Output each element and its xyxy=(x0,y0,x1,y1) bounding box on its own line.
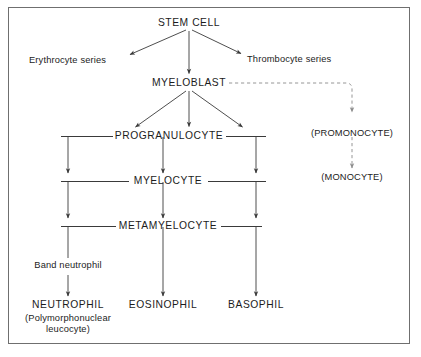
node-erythrocyte-series: Erythrocyte series xyxy=(29,55,106,66)
edge-stemcell-erythrocyte xyxy=(130,30,186,55)
node-monocyte: (MONOCYTE) xyxy=(321,172,382,183)
node-myelocyte: MYELOCYTE xyxy=(134,175,202,187)
diagram-page: STEM CELL Erythrocyte series Thrombocyte… xyxy=(0,0,421,357)
neutrophil-subtitle-line-1: (Polymorphonuclear xyxy=(25,313,111,323)
node-stem-cell: STEM CELL xyxy=(158,17,220,29)
node-neutrophil-subtitle: (Polymorphonuclear leucocyte) xyxy=(3,313,133,335)
edge-myeloblast-prog-right xyxy=(192,91,243,127)
node-band-neutrophil: Band neutrophil xyxy=(34,260,101,271)
node-progranulocyte: PROGRANULOCYTE xyxy=(115,130,223,142)
edge-stemcell-thrombocyte xyxy=(192,30,241,54)
node-myeloblast: MYELOBLAST xyxy=(152,77,226,89)
node-neutrophil: NEUTROPHIL xyxy=(32,299,104,311)
neutrophil-subtitle-line-2: leucocyte) xyxy=(46,324,90,334)
node-thrombocyte-series: Thrombocyte series xyxy=(247,54,331,65)
node-eosinophil: EOSINOPHIL xyxy=(129,299,197,311)
edge-myeloblast-prog-left xyxy=(136,91,187,127)
edge-myeloblast-promonocyte xyxy=(229,83,352,112)
node-promonocyte: (PROMONOCYTE) xyxy=(311,128,393,139)
node-metamyelocyte: METAMYELOCYTE xyxy=(119,220,218,232)
node-basophil: BASOPHIL xyxy=(228,299,284,311)
